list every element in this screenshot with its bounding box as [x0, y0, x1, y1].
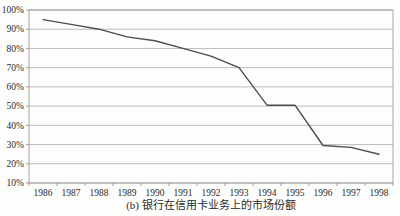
y-axis-tick-label: 70% [7, 63, 25, 73]
y-axis-tick-label: 80% [7, 44, 25, 54]
y-axis-tick-label: 100% [2, 5, 24, 15]
y-axis-tick-label: 30% [7, 140, 25, 150]
y-axis-tick-label: 20% [7, 159, 25, 169]
chart-caption: (b) 银行在信用卡业务上的市场份额 [126, 198, 296, 212]
x-axis-tick-label: 1993 [230, 188, 249, 198]
x-axis-tick-label: 1991 [174, 188, 193, 198]
x-axis-tick-label: 1998 [370, 188, 389, 198]
x-axis-tick-label: 1990 [146, 188, 165, 198]
line-chart: 100%90%80%70%60%50%40%30%20%10%198619871… [0, 0, 400, 216]
x-axis-tick-label: 1994 [258, 188, 277, 198]
y-axis-tick-label: 60% [7, 82, 25, 92]
y-axis-tick-label: 10% [7, 178, 25, 188]
x-axis-tick-label: 1989 [118, 188, 137, 198]
x-axis-tick-label: 1986 [34, 188, 53, 198]
x-axis-tick-label: 1988 [90, 188, 109, 198]
y-axis-tick-label: 40% [7, 121, 25, 131]
x-axis-tick-label: 1997 [342, 188, 361, 198]
x-axis-tick-label: 1995 [286, 188, 305, 198]
figure-panel: 100%90%80%70%60%50%40%30%20%10%198619871… [0, 0, 400, 216]
x-axis-tick-label: 1996 [314, 188, 333, 198]
x-axis-tick-label: 1992 [202, 188, 221, 198]
plot-border [29, 10, 393, 183]
y-axis-tick-label: 50% [7, 101, 25, 111]
x-axis-tick-label: 1987 [62, 188, 81, 198]
y-axis-tick-label: 90% [7, 24, 25, 34]
